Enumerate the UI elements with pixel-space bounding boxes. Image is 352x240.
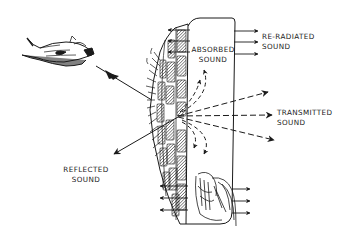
transmitted-label-line2: SOUND <box>277 118 332 128</box>
reradiated-arrows-top-right <box>234 31 258 54</box>
transmitted-rays <box>178 92 274 140</box>
indoor-plant <box>196 172 237 226</box>
transmitted-label-line1: TRANSMITTED <box>277 108 332 118</box>
reradiated-label-line1: RE-RADIATED <box>262 32 315 42</box>
absorbed-label-line1: ABSORBED <box>191 45 235 55</box>
label-reflected-sound: REFLECTED SOUND <box>63 165 109 184</box>
reflected-label-line1: REFLECTED <box>63 165 109 175</box>
reflected-label-line2: SOUND <box>63 175 109 185</box>
reradiated-label-line2: SOUND <box>262 42 315 52</box>
airplane-icon <box>22 36 94 66</box>
sound-diagram: ABSORBED SOUND RE-RADIATED SOUND TRANSMI… <box>0 0 352 240</box>
absorbed-label-line2: SOUND <box>191 55 235 65</box>
label-transmitted-sound: TRANSMITTED SOUND <box>277 108 332 127</box>
label-absorbed-sound: ABSORBED SOUND <box>191 45 235 64</box>
reradiated-arrows-bottom-right <box>232 189 250 213</box>
label-reradiated-sound: RE-RADIATED SOUND <box>262 32 315 51</box>
